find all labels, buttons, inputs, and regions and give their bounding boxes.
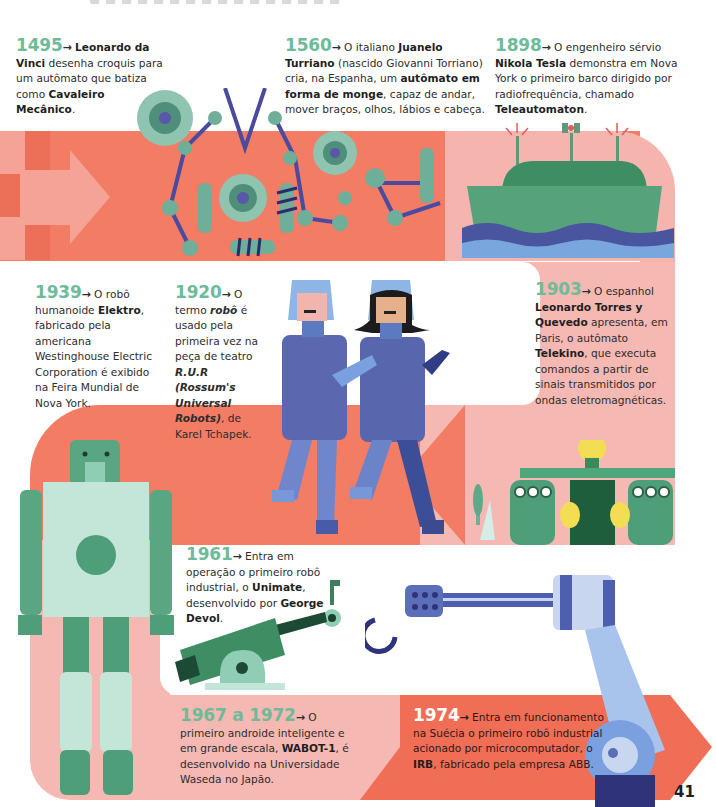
arrow-right-icon: →	[222, 288, 231, 301]
arrow-right-icon: →	[460, 711, 469, 724]
arrow-right-icon: →	[542, 41, 551, 54]
cropped-heading	[90, 0, 340, 4]
entry-highlight: Telekino	[535, 347, 584, 359]
entry-highlight: WABOT-1	[282, 742, 336, 754]
page-number: 41	[674, 783, 695, 801]
rur-robots-illustration	[272, 275, 467, 540]
entry-text: .	[220, 612, 223, 624]
entry-year: 1903	[535, 279, 582, 299]
entry-year: 1898	[495, 35, 542, 55]
start-arrow-icon	[70, 150, 110, 244]
entry-highlight: Teleautomaton	[495, 103, 584, 115]
start-arrow-body	[20, 170, 70, 225]
arrow-right-icon: →	[582, 285, 591, 298]
entry-year: 1560	[285, 35, 332, 55]
entry-highlight: robô	[210, 304, 237, 316]
entry-text: .	[584, 103, 587, 115]
timeline-entry-1898: 1898→ O engenheiro sérvio Nikola Tesla d…	[495, 38, 685, 118]
timeline-entry-1961: 1961→ Entra em operação o primeiro robô …	[186, 547, 346, 627]
entry-text: O engenheiro sérvio	[551, 41, 662, 53]
timeline-entry-1903: 1903→ O espanhol Leonardo Torres y Queve…	[535, 282, 680, 408]
entry-year: 1939	[35, 282, 82, 302]
arrow-right-icon: →	[63, 41, 72, 54]
radio-boat-illustration	[462, 118, 674, 258]
entry-highlight: Unimate	[252, 581, 302, 593]
entry-highlight: Elektro	[98, 304, 141, 316]
elektro-robot-illustration	[15, 440, 175, 800]
entry-text: O italiano	[341, 41, 399, 53]
entry-highlight: IRB	[413, 758, 433, 770]
timeline-page: 1495→ Leonardo da Vinci desenha croquis …	[0, 0, 716, 807]
entry-text: , fabricado pela americana Westinghouse …	[35, 304, 152, 409]
timeline-entry-1974: 1974→ Entra em funcionamento na Suécia o…	[413, 708, 613, 772]
entry-year: 1920	[175, 282, 222, 302]
timeline-entry-1560: 1560→ O italiano Juanelo Turriano (nasci…	[285, 38, 495, 118]
timeline-entry-1495: 1495→ Leonardo da Vinci desenha croquis …	[16, 38, 166, 118]
timeline-entry-1939: 1939→ O robô humanoide Elektro, fabricad…	[35, 285, 165, 411]
entry-year: 1967 a 1972	[180, 705, 296, 725]
arrow-right-icon: →	[233, 550, 242, 563]
entry-text: .	[72, 103, 75, 115]
timeline-entry-1920: 1920→ O termo robô é usado pela primeira…	[175, 285, 270, 442]
entry-text: , fabricado pela empresa ABB.	[433, 758, 594, 770]
arrow-right-icon: →	[82, 288, 91, 301]
arrow-right-icon: →	[296, 711, 305, 724]
telekino-machine-illustration	[470, 440, 675, 545]
arrow-right-icon: →	[332, 41, 341, 54]
entry-year: 1495	[16, 35, 63, 55]
timeline-entry-1967-1972: 1967 a 1972→ O primeiro androide intelig…	[180, 708, 350, 788]
entry-highlight: Nikola Tesla	[495, 57, 566, 69]
entry-text: O espanhol	[591, 285, 654, 297]
entry-year: 1961	[186, 544, 233, 564]
entry-year: 1974	[413, 705, 460, 725]
